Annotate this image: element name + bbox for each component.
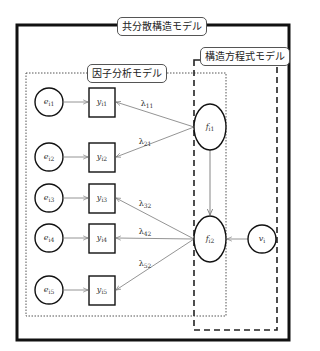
observed-label-y-i1: yi1 xyxy=(97,97,107,108)
observed-label-y-i2: yi2 xyxy=(97,152,107,163)
error-label-e-i4: ei4 xyxy=(44,233,54,244)
loading-label-52: λ52 xyxy=(139,259,152,270)
sem-box-label: 構造方程式モデル xyxy=(200,47,290,66)
loading-label-32: λ32 xyxy=(139,199,152,210)
observed-label-y-i5: yi5 xyxy=(97,285,107,296)
observed-label-y-i4: yi4 xyxy=(97,233,107,244)
outer-frame-label: 共分散構造モデル xyxy=(117,17,207,36)
disturbance-label-v-i: vi xyxy=(259,234,265,245)
loading-label-21: λ21 xyxy=(139,137,152,148)
loading-label-11: λ11 xyxy=(141,99,154,110)
error-label-e-i1: ei1 xyxy=(44,97,54,108)
observed-label-y-i3: yi3 xyxy=(97,193,107,204)
sem-box xyxy=(194,60,277,330)
error-label-e-i2: ei2 xyxy=(44,152,54,163)
factor-label-f-i2: fi2 xyxy=(206,234,215,245)
factor-analysis-box-label: 因子分析モデル xyxy=(87,64,167,83)
error-label-e-i3: ei3 xyxy=(44,193,54,204)
loading-label-42: λ42 xyxy=(139,227,152,238)
factor-label-f-i1: fi1 xyxy=(206,122,215,133)
error-label-e-i5: ei5 xyxy=(44,285,54,296)
